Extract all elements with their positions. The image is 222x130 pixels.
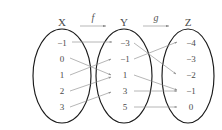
- element-x-0: −1: [57, 38, 67, 48]
- map-g-arrows: [134, 42, 177, 107]
- element-z-2: −2: [186, 70, 196, 80]
- element-x-4: 3: [60, 102, 65, 112]
- element-z-3: −1: [186, 86, 196, 96]
- element-x-3: 2: [60, 86, 65, 96]
- map-g-pair-neg1-to-neg4: [134, 42, 177, 59]
- element-y-0: −3: [120, 38, 130, 48]
- diagram-canvas: X Y Z f g −1 0: [0, 0, 222, 130]
- element-z-0: −4: [186, 38, 196, 48]
- elements-set-z: −4 −3 −2 −1 0: [186, 38, 196, 112]
- set-title-y: Y: [120, 16, 128, 28]
- element-z-4: 0: [189, 102, 194, 112]
- element-x-2: 1: [60, 70, 65, 80]
- element-y-1: −1: [120, 54, 130, 64]
- element-x-1: 0: [60, 54, 65, 64]
- function-composition-diagram: X Y Z f g −1 0: [0, 0, 222, 130]
- set-title-z: Z: [185, 16, 192, 28]
- map-label-g: g: [154, 12, 159, 23]
- elements-set-x: −1 0 1 2 3: [57, 38, 67, 112]
- elements-set-y: −3 −1 1 3 5: [120, 38, 130, 112]
- element-y-4: 5: [123, 102, 128, 112]
- element-z-1: −3: [186, 54, 196, 64]
- element-y-2: 1: [123, 70, 128, 80]
- map-g-pair-1-to-neg1: [134, 75, 177, 90]
- map-f-pair-3-to-3: [70, 92, 111, 107]
- set-titles: X Y Z: [58, 16, 192, 28]
- map-g-pair-neg3-to-neg2: [134, 43, 176, 74]
- map-label-f: f: [92, 12, 96, 23]
- set-title-x: X: [58, 16, 66, 28]
- element-y-3: 3: [123, 86, 128, 96]
